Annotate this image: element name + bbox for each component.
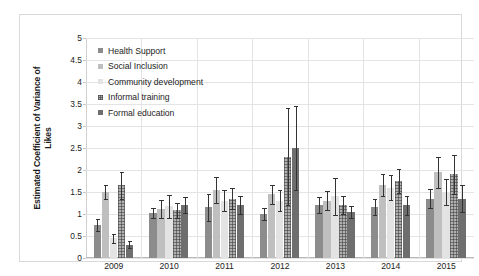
legend-item-label: Social Inclusion xyxy=(108,61,168,71)
gridline xyxy=(86,148,474,149)
error-bar-cap-top xyxy=(444,179,449,180)
error-bar-cap-top xyxy=(159,200,164,201)
error-bar xyxy=(351,206,352,218)
legend-item[interactable]: Health Support xyxy=(98,43,288,59)
error-bar xyxy=(129,241,130,248)
error-bar-cap-top xyxy=(262,208,267,209)
legend-swatch-icon xyxy=(98,64,103,69)
bar xyxy=(102,192,109,258)
x-axis-tick-label: 2011 xyxy=(215,261,233,271)
error-bar xyxy=(177,203,178,219)
error-bar xyxy=(153,208,154,219)
error-bar xyxy=(446,179,447,205)
error-bar-cap-top xyxy=(183,197,188,198)
error-bar-cap-bottom xyxy=(175,218,180,219)
error-bar-cap-top xyxy=(460,185,465,186)
error-bar-cap-bottom xyxy=(333,215,338,216)
legend-item[interactable]: Formal education xyxy=(98,105,288,121)
error-bar-cap-top xyxy=(333,178,338,179)
error-bar-cap-bottom xyxy=(183,213,188,214)
error-bar-cap-bottom xyxy=(317,213,322,214)
legend-item-label: Health Support xyxy=(108,46,165,56)
error-bar xyxy=(208,194,209,220)
error-bar xyxy=(169,195,170,218)
legend-swatch-icon xyxy=(98,110,103,115)
error-bar-cap-bottom xyxy=(349,218,354,219)
error-bar xyxy=(105,185,106,199)
error-bar-cap-top xyxy=(128,241,133,242)
error-bar xyxy=(296,106,297,190)
y-axis-tick xyxy=(83,214,86,215)
error-bar-cap-bottom xyxy=(381,196,386,197)
group-separator xyxy=(308,38,309,258)
x-axis-tick-label: 2013 xyxy=(326,261,345,271)
error-bar xyxy=(407,196,408,215)
error-bar-cap-top xyxy=(214,177,219,178)
gridline xyxy=(86,170,474,171)
error-bar xyxy=(383,174,384,196)
y-axis-tick-labels: 54.543.532.521.510.50 xyxy=(40,38,82,258)
error-bar-cap-bottom xyxy=(436,188,441,189)
y-axis-tick xyxy=(83,258,86,259)
error-bar-cap-top xyxy=(349,206,354,207)
error-bar xyxy=(121,172,122,198)
x-axis-tick-label: 2009 xyxy=(104,261,123,271)
y-axis-tick-label: 4 xyxy=(42,77,82,87)
error-bar-cap-top xyxy=(278,190,283,191)
legend-item[interactable]: Social Inclusion xyxy=(98,59,288,75)
error-bar-cap-top xyxy=(112,234,117,235)
y-axis-tick-label: 0 xyxy=(42,253,82,263)
error-bar xyxy=(288,108,289,205)
y-axis-tick-label: 5 xyxy=(42,33,82,43)
error-bar-cap-bottom xyxy=(286,205,291,206)
error-bar xyxy=(272,185,273,204)
error-bar-cap-bottom xyxy=(373,215,378,216)
y-axis-tick xyxy=(83,148,86,149)
error-bar xyxy=(454,155,455,195)
legend-item[interactable]: Community development xyxy=(98,74,288,90)
error-bar-cap-top xyxy=(270,185,275,186)
error-bar xyxy=(185,197,186,213)
error-bar-cap-top xyxy=(436,157,441,158)
error-bar-cap-bottom xyxy=(278,211,283,212)
y-axis-tick xyxy=(83,38,86,39)
chart-figure: Estimated Coefficient of Variance of Lik… xyxy=(0,0,479,276)
error-bar-cap-top xyxy=(230,188,235,189)
error-bar-cap-bottom xyxy=(397,193,402,194)
error-bar-cap-top xyxy=(104,185,109,186)
error-bar xyxy=(224,190,225,211)
legend-swatch-icon xyxy=(98,48,103,53)
x-axis-tick-label: 2015 xyxy=(437,261,456,271)
error-bar xyxy=(462,185,463,211)
error-bar-cap-top xyxy=(167,195,172,196)
error-bar-cap-bottom xyxy=(389,200,394,201)
y-axis-tick xyxy=(83,236,86,237)
error-bar xyxy=(375,199,376,215)
legend-item-label: Community development xyxy=(108,77,203,87)
group-separator xyxy=(363,38,364,258)
gridline xyxy=(86,258,474,259)
error-bar-cap-bottom xyxy=(151,218,156,219)
y-axis-tick-label: 1.5 xyxy=(42,187,82,197)
y-axis-tick xyxy=(83,104,86,105)
error-bar xyxy=(438,157,439,188)
error-bar-cap-bottom xyxy=(128,248,133,249)
y-axis-tick-label: 3.5 xyxy=(42,99,82,109)
group-separator xyxy=(419,38,420,258)
error-bar xyxy=(280,190,281,211)
error-bar xyxy=(264,208,265,220)
error-bar-cap-bottom xyxy=(96,231,101,232)
error-bar-cap-top xyxy=(294,106,299,107)
bar xyxy=(149,213,156,258)
error-bar xyxy=(113,234,114,243)
error-bar xyxy=(399,169,400,194)
y-axis-tick-label: 2.5 xyxy=(42,143,82,153)
x-axis-tick-label: 2010 xyxy=(160,261,179,271)
error-bar-cap-bottom xyxy=(238,214,243,215)
y-axis-tick xyxy=(83,82,86,83)
error-bar xyxy=(97,219,98,230)
error-bar-cap-bottom xyxy=(341,214,346,215)
y-axis-tick xyxy=(83,60,86,61)
legend-item[interactable]: Informal training xyxy=(98,90,288,106)
error-bar-cap-top xyxy=(96,219,101,220)
